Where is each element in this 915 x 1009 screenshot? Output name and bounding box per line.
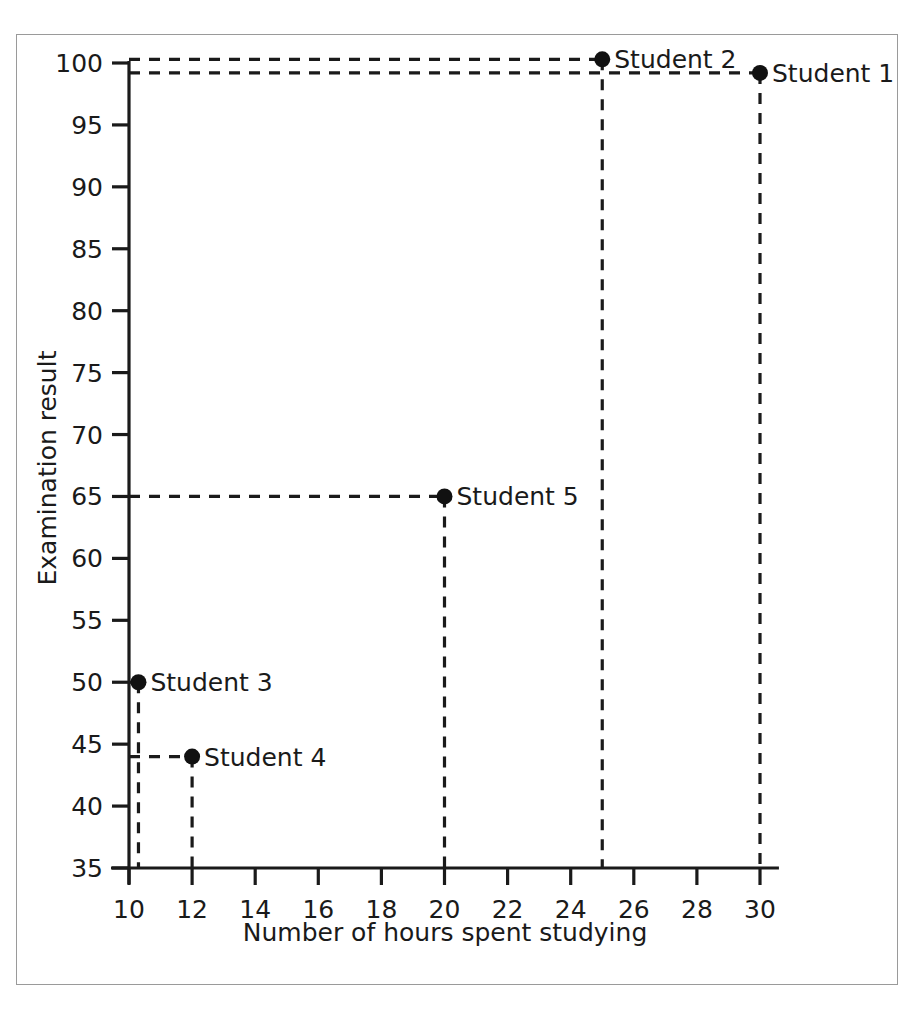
y-tick-label: 75: [71, 360, 103, 385]
y-tick-label: 50: [71, 670, 103, 695]
data-point-label: Student 2: [614, 47, 736, 72]
x-axis-title: Number of hours spent studying: [243, 920, 648, 945]
data-point-label: Student 1: [772, 60, 894, 85]
data-point-label: Student 3: [150, 670, 272, 695]
y-tick-label: 60: [71, 546, 103, 571]
y-tick-label: 95: [71, 112, 103, 137]
data-point-label: Student 4: [204, 744, 326, 769]
y-tick-label: 90: [71, 174, 103, 199]
data-markers: [130, 51, 768, 764]
x-tick-label: 12: [176, 897, 208, 922]
y-tick-label: 85: [71, 236, 103, 261]
y-axis-title: Examination result: [35, 351, 60, 586]
y-tick-label: 80: [71, 298, 103, 323]
y-tick-label: 45: [71, 732, 103, 757]
y-tick-label: 70: [71, 422, 103, 447]
y-tick-label: 65: [71, 484, 103, 509]
y-tick-label: 35: [71, 856, 103, 881]
y-tick-label: 40: [71, 794, 103, 819]
x-tick-label: 30: [744, 897, 776, 922]
y-tick-label: 100: [55, 51, 103, 76]
x-tick-label: 10: [113, 897, 145, 922]
data-point-label: Student 5: [457, 484, 579, 509]
y-tick-label: 55: [71, 608, 103, 633]
x-tick-label: 28: [681, 897, 713, 922]
